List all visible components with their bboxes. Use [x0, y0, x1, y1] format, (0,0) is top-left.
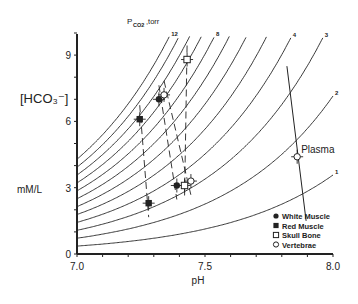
legend: White MuscleRed MuscleSkull BoneVertebra…	[273, 212, 330, 250]
point-plasma-0	[294, 154, 300, 160]
y-axis-label-bottom: mM/L	[17, 184, 42, 195]
y-axis-label-top: [HCO₃⁻]	[20, 91, 68, 106]
y-tick-label: 0	[65, 249, 71, 260]
y-tick-label: 3	[65, 183, 71, 194]
legend-marker-white-muscle	[273, 213, 278, 218]
legend-marker-red-muscle	[273, 223, 278, 228]
isopleth-title-sub: CO2	[133, 22, 144, 28]
legend-label-skull-bone: Skull Bone	[282, 231, 321, 240]
isopleth-title-p: P	[127, 17, 132, 26]
x-axis-label: pH	[192, 275, 205, 286]
ph-bicarbonate-chart: 1234812 Plasma 03697.07.58.0 White Muscl…	[0, 0, 358, 304]
isopleth-label-3: 3	[325, 32, 329, 38]
isopleth-label-2: 2	[335, 90, 339, 96]
dashed-link-skull-bone	[185, 46, 188, 200]
isopleth-label-8: 8	[216, 31, 220, 37]
x-tick-label: 8.0	[326, 261, 340, 272]
isopleth-label-4: 4	[293, 32, 297, 38]
isopleth-pco2-7	[77, 36, 229, 198]
isopleth-pco2-12	[77, 37, 169, 159]
point-vertebrae-0	[161, 92, 167, 98]
y-tick-label: 9	[65, 50, 71, 61]
point-red-muscle-0	[137, 116, 143, 122]
legend-marker-vertebrae	[273, 242, 278, 247]
isopleth-pco2-5	[77, 37, 266, 215]
isopleth-pco2-11	[77, 38, 178, 167]
isopleth-pco2-10	[77, 36, 190, 175]
legend-marker-skull-bone	[273, 232, 278, 237]
chart-canvas: 1234812 Plasma 03697.07.58.0 White Muscl…	[0, 0, 358, 304]
x-tick-label: 7.0	[70, 261, 84, 272]
legend-label-white-muscle: White Muscle	[282, 212, 330, 221]
isopleth-pco2-8	[77, 37, 214, 190]
isopleth-pco2-6	[77, 37, 246, 206]
isopleth-label-1: 1	[335, 169, 339, 175]
legend-label-red-muscle: Red Muscle	[282, 222, 324, 231]
plasma-label: Plasma	[301, 144, 335, 155]
x-tick-label: 7.5	[198, 261, 212, 272]
point-skull-bone-0	[184, 56, 190, 62]
legend-label-vertebrae: Vertebrae	[282, 241, 316, 250]
isopleth-title: P CO2 ,torr	[127, 17, 160, 28]
y-tick-label: 6	[65, 116, 71, 127]
point-vertebrae-1	[188, 178, 194, 184]
point-red-muscle-1	[145, 200, 151, 206]
point-skull-bone-1	[181, 182, 187, 188]
isopleth-title-suffix: ,torr	[146, 17, 160, 26]
isopleth-label-12: 12	[171, 31, 178, 37]
